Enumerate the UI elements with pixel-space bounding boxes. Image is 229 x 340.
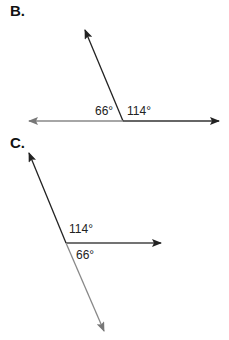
figure-b-angle-66: 66°	[95, 104, 113, 118]
figure-c-ray-up	[29, 153, 66, 243]
figure-b-angle-114: 114°	[127, 104, 151, 118]
figure-c: 114° 66°	[29, 153, 161, 331]
angle-diagrams: 66° 114° 114° 66°	[0, 0, 229, 340]
figure-c-angle-114: 114°	[69, 222, 93, 236]
figure-b: 66° 114°	[29, 30, 219, 121]
figure-c-angle-66: 66°	[76, 248, 94, 262]
